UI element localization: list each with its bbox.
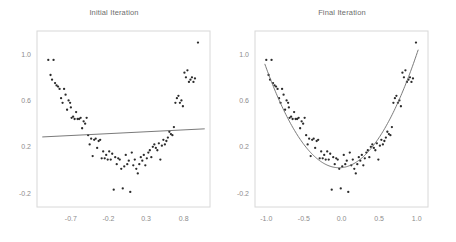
scatter-point xyxy=(75,111,77,113)
scatter-point xyxy=(364,157,366,159)
scatter-point xyxy=(395,95,397,97)
scatter-point xyxy=(308,138,310,140)
scatter-point xyxy=(379,144,381,146)
scatter-point xyxy=(113,188,115,190)
scatter-point xyxy=(310,155,312,157)
scatter-point xyxy=(60,97,62,99)
scatter-point xyxy=(323,154,325,156)
scatter-point xyxy=(305,134,307,136)
scatter-point xyxy=(156,149,158,151)
scatter-point xyxy=(180,99,182,101)
plot-final-iteration: 1.00.60.2-0.2 -1.0-0.50.00.51.0 xyxy=(228,0,456,242)
scatter-point xyxy=(194,77,196,79)
figure-two-panel-regression: Initial Iteration 1.00.60.2-0.2 -0.7-0.2… xyxy=(0,0,456,242)
scatter-point xyxy=(314,147,316,149)
scatter-point xyxy=(285,99,287,101)
scatter-point xyxy=(129,191,131,193)
scatter-point xyxy=(300,120,302,122)
scatter-point xyxy=(394,97,396,99)
plot-initial-iteration: 1.00.60.2-0.2 -0.7-0.20.30.8 xyxy=(0,0,228,242)
scatter-point xyxy=(346,160,348,162)
scatter-point xyxy=(391,126,393,128)
x-tick-label: -0.2 xyxy=(102,215,114,222)
y-tick-label: -0.2 xyxy=(237,190,249,197)
x-tick-label: -1.0 xyxy=(260,215,272,222)
scatter-point xyxy=(135,168,137,170)
scatter-point xyxy=(141,160,143,162)
scatter-point xyxy=(317,139,319,141)
scatter-point xyxy=(328,158,330,160)
scatter-point xyxy=(51,78,53,80)
scatter-point xyxy=(356,163,358,165)
scatter-point xyxy=(415,41,417,43)
scatter-point xyxy=(64,94,66,96)
scatter-point xyxy=(52,59,54,61)
scatter-point xyxy=(282,94,284,96)
scatter-point xyxy=(159,158,161,160)
scatter-point xyxy=(355,172,357,174)
scatter-point xyxy=(162,139,164,141)
x-tick-label: -0.5 xyxy=(298,215,310,222)
scatter-point xyxy=(107,158,109,160)
scatter-point xyxy=(173,126,175,128)
scatter-point xyxy=(134,158,136,160)
scatter-point xyxy=(332,156,334,158)
scatter-point xyxy=(401,72,403,74)
scatter-point xyxy=(72,116,74,118)
scatter-point xyxy=(92,155,94,157)
scatter-point xyxy=(85,117,87,119)
scatter-point xyxy=(297,117,299,119)
scatter-point xyxy=(368,156,370,158)
scatter-point xyxy=(347,191,349,193)
scatter-point xyxy=(116,163,118,165)
scatter-point xyxy=(155,147,157,149)
scatter-point xyxy=(63,88,65,90)
scatter-point xyxy=(349,151,351,153)
scatter-point xyxy=(192,81,194,83)
scatter-point xyxy=(409,76,411,78)
scatter-point xyxy=(176,97,178,99)
scatter-point xyxy=(389,134,391,136)
scatter-point xyxy=(313,138,315,140)
scatter-point xyxy=(79,117,81,119)
scatter-point xyxy=(137,172,139,174)
y-tick-label: -0.2 xyxy=(19,190,31,197)
scatter-point xyxy=(270,59,272,61)
scatter-point xyxy=(377,158,379,160)
scatter-point xyxy=(320,150,322,152)
scatter-point xyxy=(81,127,83,129)
scatter-point xyxy=(358,156,360,158)
scatter-point xyxy=(149,149,151,151)
y-tick-label: 1.0 xyxy=(21,51,31,58)
scatter-point xyxy=(158,142,160,144)
scatter-point xyxy=(361,154,363,156)
y-tick-labels-final: 1.00.60.2-0.2 xyxy=(237,51,249,197)
scatter-point xyxy=(138,163,140,165)
scatter-point xyxy=(265,59,267,61)
scatter-point xyxy=(66,109,68,111)
scatter-point xyxy=(403,76,405,78)
scatter-point xyxy=(57,85,59,87)
scatter-point xyxy=(84,122,86,124)
scatter-point xyxy=(382,143,384,145)
scatter-point xyxy=(299,127,301,129)
y-tick-label: 0.2 xyxy=(239,143,249,150)
scatter-point xyxy=(344,163,346,165)
scatter-point xyxy=(122,187,124,189)
x-tick-label: 0.3 xyxy=(141,215,151,222)
x-tick-label: 0.0 xyxy=(337,215,347,222)
scatter-point xyxy=(337,158,339,160)
scatter-point xyxy=(185,76,187,78)
scatter-point xyxy=(188,81,190,83)
scatter-point xyxy=(307,143,309,145)
scatter-point xyxy=(105,154,107,156)
scatter-point xyxy=(58,88,60,90)
scatter-point xyxy=(189,78,191,80)
scatter-point xyxy=(99,139,101,141)
scatter-point xyxy=(362,164,364,166)
scatter-point xyxy=(104,157,106,159)
scatter-point xyxy=(128,160,130,162)
scatter-point xyxy=(67,99,69,101)
scatter-point xyxy=(293,111,295,113)
y-tick-label: 0.6 xyxy=(239,97,249,104)
